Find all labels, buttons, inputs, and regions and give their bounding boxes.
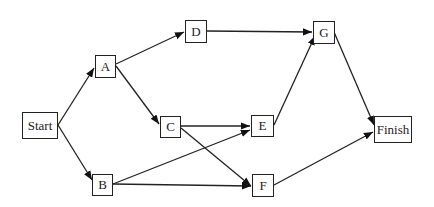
node-label: D — [191, 24, 200, 40]
edge-a-to-d — [116, 32, 184, 64]
edge-b-to-f — [113, 184, 251, 186]
edge-f-to-finish — [274, 132, 373, 185]
edge-c-to-f — [181, 128, 251, 186]
edge-d-to-g — [207, 31, 312, 32]
edge-b-to-e — [113, 130, 250, 184]
node-finish: Finish — [374, 116, 412, 143]
node-label: C — [166, 119, 175, 135]
node-d: D — [185, 20, 207, 43]
node-label: F — [259, 178, 266, 194]
node-label: A — [101, 59, 110, 75]
node-label: Start — [28, 118, 53, 134]
node-start: Start — [22, 112, 58, 139]
edge-start-to-b — [58, 125, 92, 180]
node-label: Finish — [377, 122, 410, 138]
node-b: B — [92, 174, 113, 196]
node-e: E — [251, 115, 274, 137]
node-c: C — [160, 116, 181, 138]
node-label: B — [98, 177, 107, 193]
edge-a-to-c — [116, 66, 159, 124]
node-f: F — [252, 174, 274, 197]
edge-g-to-finish — [334, 32, 374, 125]
node-a: A — [95, 55, 116, 78]
node-label: G — [319, 25, 328, 41]
node-label: E — [259, 118, 267, 134]
node-g: G — [313, 21, 335, 44]
edges-layer — [0, 0, 434, 207]
edge-e-to-g — [274, 36, 315, 125]
edge-start-to-a — [58, 68, 94, 125]
